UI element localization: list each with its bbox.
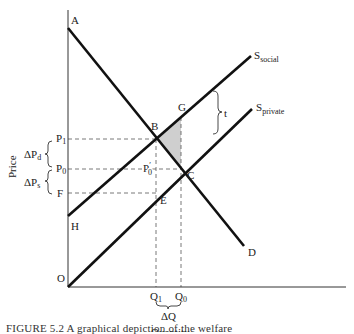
price-label-f: F (57, 187, 63, 199)
delta-pd-label: ΔPd (24, 148, 41, 162)
quantity-label-q1: Q1 (150, 290, 162, 304)
point-label-e: E (160, 194, 167, 206)
price-label-p0: P0 (56, 162, 66, 176)
figure-caption: FIGURE 5.2 A graphical depiction of the … (6, 322, 354, 334)
s-private-label: Sprivate (256, 101, 285, 116)
price-label-p0-prime: P′0 (143, 161, 152, 177)
price-label-p1: P1 (56, 132, 66, 146)
quantity-label-q0: Q0 (175, 290, 187, 304)
demand-curve (68, 28, 244, 246)
point-label-c: C (187, 169, 194, 181)
point-label-b: B (151, 120, 158, 132)
s-social-label: Ssocial (254, 49, 280, 64)
point-label-h: H (71, 220, 79, 232)
y-axis-title: Price (6, 155, 18, 178)
point-label-a: A (71, 14, 79, 26)
tax-bracket (213, 91, 222, 134)
delta-ps-bracket (45, 170, 52, 194)
delta-q-label: ΔQ (161, 310, 176, 322)
origin-label: O (57, 272, 65, 284)
tax-label: t (224, 107, 227, 119)
point-label-d: D (248, 246, 256, 258)
point-label-g: G (178, 101, 186, 113)
delta-pd-bracket (45, 141, 52, 167)
delta-ps-label: ΔPs (24, 176, 40, 190)
